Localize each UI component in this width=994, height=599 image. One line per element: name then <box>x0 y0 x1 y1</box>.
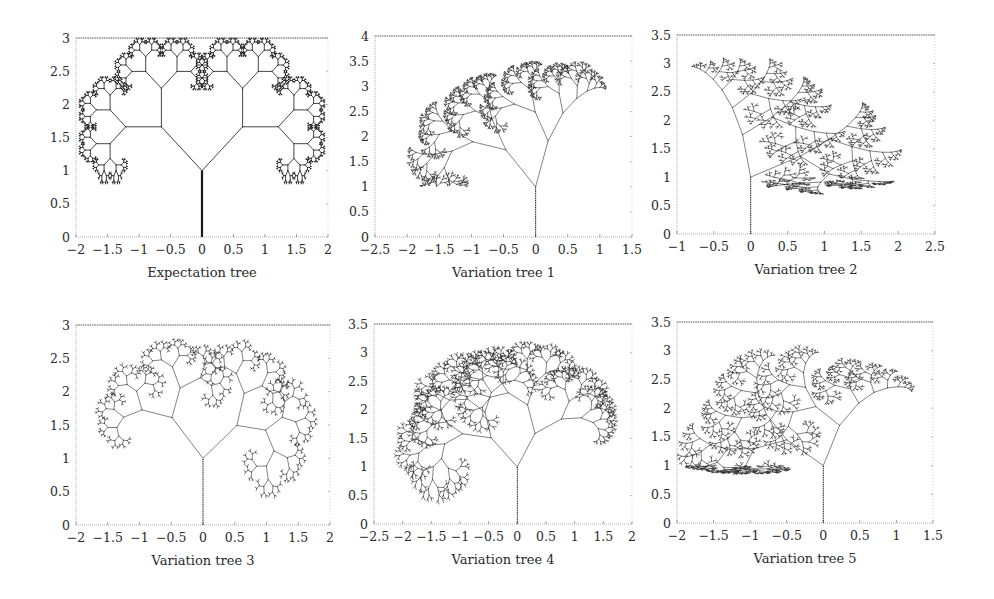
panel-variation-tree-4: −2.5−2−1.5−1−0.500.511.5200.511.522.533.… <box>374 324 632 524</box>
svg-text:2.5: 2.5 <box>651 84 671 99</box>
svg-text:1.5: 1.5 <box>923 528 943 543</box>
svg-text:1: 1 <box>62 163 70 178</box>
svg-text:0: 0 <box>513 529 521 544</box>
svg-text:3: 3 <box>62 31 70 46</box>
svg-text:0.5: 0.5 <box>558 242 578 257</box>
panel-variation-tree-2: −1−0.500.511.522.500.511.522.533.5 Varia… <box>677 35 935 234</box>
svg-text:−0.5: −0.5 <box>156 530 186 545</box>
svg-text:−1: −1 <box>130 242 148 257</box>
svg-text:0: 0 <box>663 516 671 531</box>
svg-text:0.5: 0.5 <box>850 528 870 543</box>
svg-text:2.5: 2.5 <box>349 104 369 119</box>
svg-text:1.5: 1.5 <box>851 239 871 254</box>
svg-text:2: 2 <box>663 401 671 416</box>
panel-variation-tree-1: −2.5−2−1.5−1−0.500.511.500.511.522.533.5… <box>375 36 632 237</box>
svg-text:1: 1 <box>571 529 579 544</box>
plot-area: −2−1.5−1−0.500.511.5200.511.522.53 <box>76 38 328 237</box>
svg-text:2.5: 2.5 <box>50 351 70 366</box>
svg-text:4: 4 <box>361 29 369 44</box>
svg-text:3.5: 3.5 <box>651 28 671 43</box>
svg-text:0: 0 <box>360 517 368 532</box>
plot-area: −2.5−2−1.5−1−0.500.511.500.511.522.533.5… <box>375 36 632 237</box>
svg-text:−2: −2 <box>398 242 416 257</box>
svg-text:1.5: 1.5 <box>593 529 613 544</box>
panel-caption: Variation tree 4 <box>451 552 554 567</box>
fractal-tree <box>677 345 915 523</box>
svg-text:2: 2 <box>360 402 368 417</box>
svg-text:1: 1 <box>263 530 271 545</box>
x-axis-ticks: −2−1.5−1−0.500.511.5 <box>668 520 943 543</box>
svg-text:1: 1 <box>663 170 671 185</box>
plot-area: −1−0.500.511.522.500.511.522.533.5 <box>677 35 935 234</box>
svg-text:1.5: 1.5 <box>50 418 70 433</box>
svg-text:−1: −1 <box>451 529 469 544</box>
svg-text:−2: −2 <box>393 529 411 544</box>
svg-text:−1: −1 <box>462 242 480 257</box>
svg-text:2: 2 <box>326 530 334 545</box>
svg-text:1: 1 <box>360 459 368 474</box>
x-axis-ticks: −1−0.500.511.522.5 <box>668 231 945 254</box>
panel-caption: Variation tree 1 <box>452 265 555 280</box>
svg-text:−1: −1 <box>130 530 148 545</box>
panel-caption: Variation tree 5 <box>753 551 856 566</box>
svg-text:3: 3 <box>360 345 368 360</box>
svg-text:2.5: 2.5 <box>348 374 368 389</box>
svg-text:−0.5: −0.5 <box>488 242 518 257</box>
svg-text:0.5: 0.5 <box>651 198 671 213</box>
svg-text:−1.5: −1.5 <box>92 242 122 257</box>
svg-text:2.5: 2.5 <box>925 239 945 254</box>
plot-area: −2−1.5−1−0.500.511.500.511.522.533.5 <box>677 322 933 523</box>
svg-text:0.5: 0.5 <box>225 530 245 545</box>
svg-text:0: 0 <box>663 227 671 242</box>
svg-text:−1: −1 <box>741 528 759 543</box>
svg-text:0.5: 0.5 <box>348 488 368 503</box>
svg-text:1.5: 1.5 <box>288 530 308 545</box>
svg-text:−0.5: −0.5 <box>473 529 503 544</box>
svg-text:0.5: 0.5 <box>349 204 369 219</box>
y-axis-ticks: 00.511.522.533.5 <box>651 28 935 242</box>
panel-variation-tree-3: −2−1.5−1−0.500.511.5200.511.522.53 Varia… <box>76 325 330 525</box>
svg-text:0.5: 0.5 <box>651 487 671 502</box>
svg-text:3.5: 3.5 <box>348 317 368 332</box>
axes-frame <box>677 35 935 234</box>
x-axis-ticks: −2.5−2−1.5−1−0.500.511.5 <box>360 234 642 257</box>
panel-variation-tree-5: −2−1.5−1−0.500.511.500.511.522.533.5 Var… <box>677 322 933 523</box>
x-axis-ticks: −2−1.5−1−0.500.511.52 <box>67 234 332 257</box>
svg-text:0: 0 <box>361 230 369 245</box>
svg-text:2: 2 <box>663 113 671 128</box>
svg-text:1.5: 1.5 <box>651 429 671 444</box>
svg-text:3.5: 3.5 <box>651 315 671 330</box>
svg-text:−1.5: −1.5 <box>698 528 728 543</box>
svg-text:1: 1 <box>820 239 828 254</box>
svg-text:1.5: 1.5 <box>651 141 671 156</box>
plot-area: −2.5−2−1.5−1−0.500.511.5200.511.522.533.… <box>374 324 632 524</box>
y-axis-ticks: 00.511.522.53 <box>50 318 330 533</box>
svg-text:3: 3 <box>62 318 70 333</box>
svg-text:−1.5: −1.5 <box>424 242 454 257</box>
svg-text:−0.5: −0.5 <box>699 239 729 254</box>
svg-text:1: 1 <box>261 242 269 257</box>
svg-text:0.5: 0.5 <box>224 242 244 257</box>
svg-text:2: 2 <box>361 129 369 144</box>
panel-caption: Variation tree 3 <box>151 553 254 568</box>
svg-text:0.5: 0.5 <box>50 196 70 211</box>
svg-text:3: 3 <box>663 343 671 358</box>
fractal-tree <box>407 61 606 237</box>
fractal-tree <box>79 38 325 237</box>
fractal-tree <box>692 58 902 234</box>
svg-text:2: 2 <box>894 239 902 254</box>
svg-text:2: 2 <box>628 529 636 544</box>
svg-text:2: 2 <box>62 384 70 399</box>
svg-text:2: 2 <box>324 242 332 257</box>
panel-caption: Variation tree 2 <box>754 262 857 277</box>
y-axis-ticks: 00.511.522.533.5 <box>651 315 933 531</box>
svg-text:1: 1 <box>62 451 70 466</box>
svg-text:−1.5: −1.5 <box>416 529 446 544</box>
svg-text:0.5: 0.5 <box>778 239 798 254</box>
svg-text:0: 0 <box>198 242 206 257</box>
svg-text:−1.5: −1.5 <box>93 530 123 545</box>
svg-text:0: 0 <box>747 239 755 254</box>
svg-text:−0.5: −0.5 <box>155 242 185 257</box>
svg-text:3.5: 3.5 <box>349 54 369 69</box>
svg-text:0: 0 <box>819 528 827 543</box>
